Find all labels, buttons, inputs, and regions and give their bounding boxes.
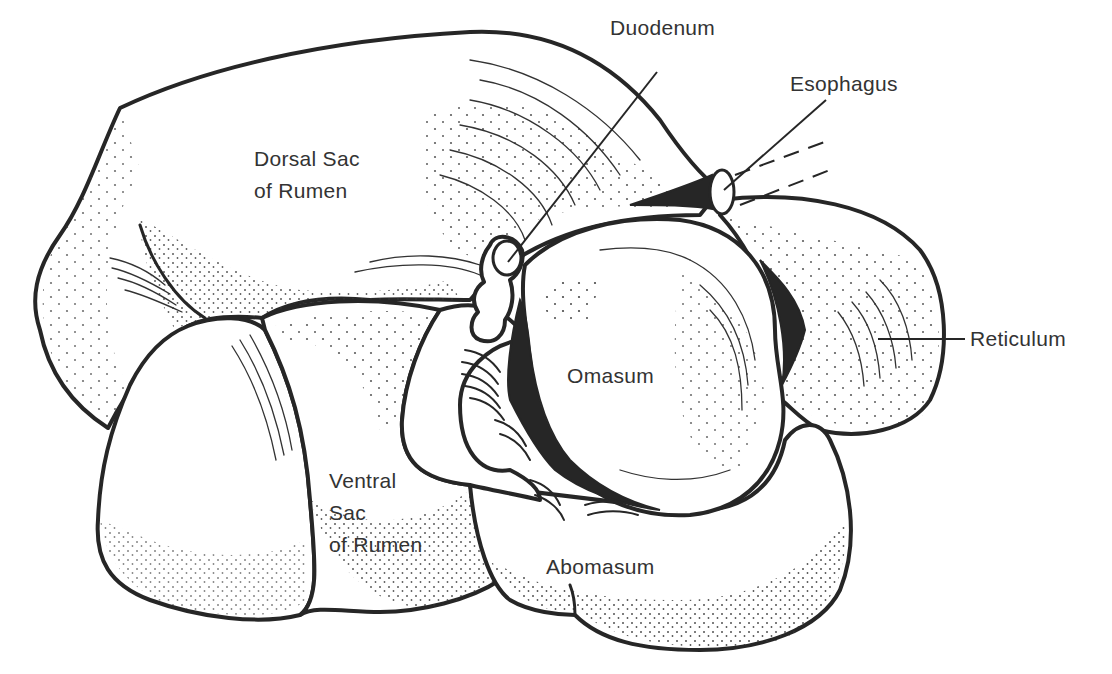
label-dorsal-sac-line-2: of Rumen — [254, 175, 360, 207]
label-ventral-sac-line-2: Sac — [329, 497, 422, 529]
label-ventral-sac-line-1: Ventral — [329, 465, 422, 497]
esophagus-leader-line — [724, 100, 826, 190]
label-dorsal-sac-line-1: Dorsal Sac — [254, 143, 360, 175]
label-ventral-sac-of-rumen: Ventral Sac of Rumen — [329, 465, 422, 561]
label-dorsal-sac-of-rumen: Dorsal Sac of Rumen — [254, 143, 360, 207]
label-duodenum: Duodenum — [610, 12, 715, 44]
label-omasum: Omasum — [567, 360, 654, 392]
rumen-anatomy-diagram: Duodenum Esophagus Dorsal Sac of Rumen R… — [0, 0, 1112, 674]
label-reticulum: Reticulum — [970, 323, 1066, 355]
label-esophagus: Esophagus — [790, 68, 898, 100]
label-abomasum: Abomasum — [546, 551, 655, 583]
label-ventral-sac-line-3: of Rumen — [329, 529, 422, 561]
